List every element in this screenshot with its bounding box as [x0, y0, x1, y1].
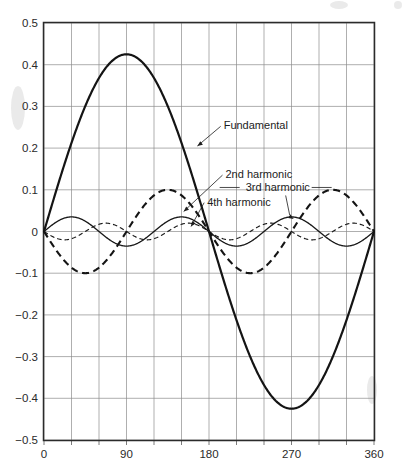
y-tick-label: −0.4	[15, 392, 38, 404]
y-tick-label: 0.1	[22, 184, 38, 196]
y-tick-label: 0.3	[22, 100, 38, 112]
y-tick-label: 0.2	[22, 142, 38, 154]
y-tick-label: −0.2	[15, 309, 38, 321]
chart-canvas: −0.5−0.4−0.3−0.2−0.100.10.20.30.40.5 090…	[0, 0, 409, 470]
y-tick-label: 0.4	[22, 59, 39, 71]
annotation-label: 3rd harmonic	[246, 181, 311, 193]
y-tick-label: −0.5	[15, 434, 38, 446]
x-tick-label: 90	[120, 448, 133, 460]
harmonic-analysis-chart: −0.5−0.4−0.3−0.2−0.100.10.20.30.40.5 090…	[0, 0, 409, 470]
annotation-label: 2nd harmonic	[226, 168, 293, 180]
annotation-label: 4th harmonic	[207, 196, 271, 208]
x-tick-label: 270	[282, 448, 301, 460]
y-tick-label: 0	[32, 226, 38, 238]
y-tick-label: −0.1	[15, 267, 38, 279]
annotation-label: Fundamental	[224, 119, 288, 131]
x-tick-label: 0	[41, 448, 47, 460]
y-tick-label: −0.3	[15, 351, 38, 363]
x-tick-label: 360	[364, 448, 383, 460]
y-tick-label: 0.5	[22, 17, 38, 29]
x-tick-label: 180	[199, 448, 218, 460]
chart-background	[0, 0, 409, 470]
